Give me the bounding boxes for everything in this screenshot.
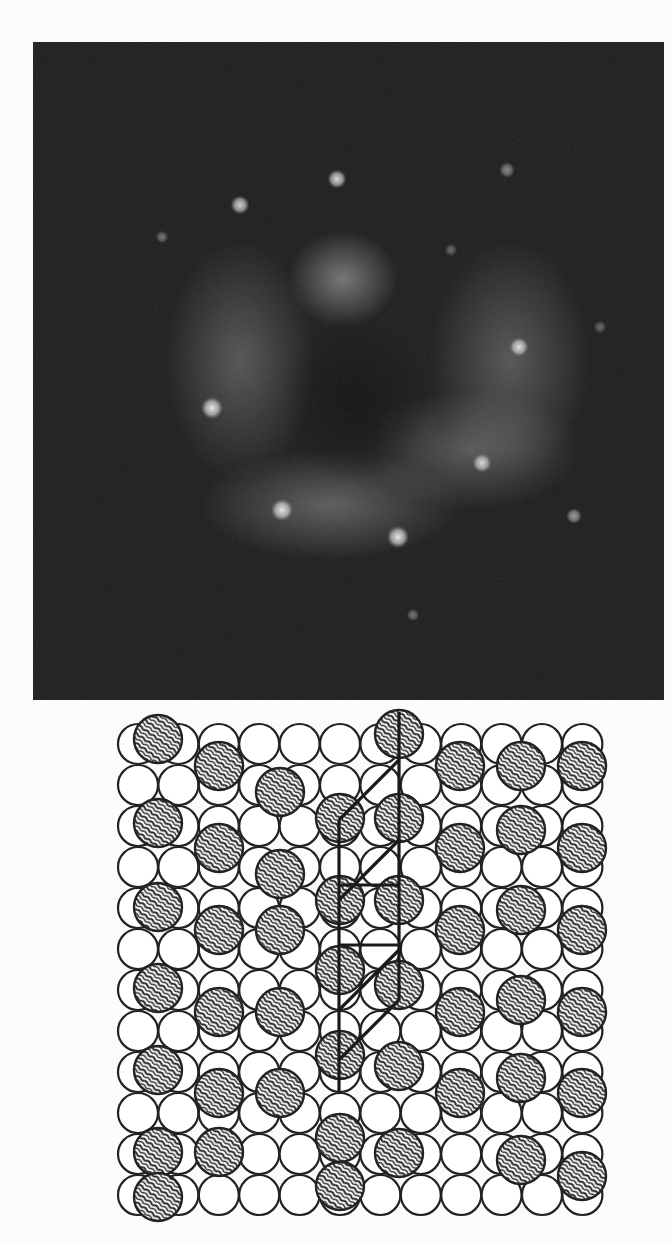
substrate-atom (118, 1093, 158, 1133)
substrate-atom (482, 929, 522, 969)
substrate-atom (401, 1093, 441, 1133)
adsorbate-atom (436, 906, 484, 954)
substrate-atom (441, 1134, 481, 1174)
adsorbate-atom (436, 1069, 484, 1117)
substrate-atom (360, 1093, 400, 1133)
lattice-model-diagram (0, 700, 671, 1243)
adsorbate-atom (195, 824, 243, 872)
adsorbate-atom (195, 906, 243, 954)
adsorbate-atom (256, 1069, 304, 1117)
adsorbate-atom (256, 850, 304, 898)
substrate-atom (522, 929, 562, 969)
adsorbate-atom (256, 988, 304, 1036)
adsorbate-atom (558, 1152, 606, 1200)
adsorbate-atom (497, 976, 545, 1024)
substrate-atom (239, 724, 279, 764)
adsorbate-atom (316, 1162, 364, 1210)
adsorbate-atom (134, 799, 182, 847)
adsorbate-atom (134, 1046, 182, 1094)
adsorbate-atom (558, 742, 606, 790)
noise-overlay (33, 42, 664, 700)
substrate-atom (239, 1134, 279, 1174)
adsorbate-atom (497, 1136, 545, 1184)
lattice-model-svg (0, 700, 671, 1243)
substrate-atom (158, 847, 198, 887)
adsorbate-atom (195, 1069, 243, 1117)
adsorbate-atom (375, 1129, 423, 1177)
adsorbate-atom (497, 806, 545, 854)
substrate-atom (280, 724, 320, 764)
adsorbate-atom (134, 715, 182, 763)
adsorbate-atom (436, 988, 484, 1036)
substrate-atom (401, 1175, 441, 1215)
adsorbate-atom (134, 883, 182, 931)
substrate-atom (118, 847, 158, 887)
adsorbate-atom (195, 742, 243, 790)
leed-diffraction-image (33, 42, 664, 700)
adsorbate-atom (134, 964, 182, 1012)
substrate-atom (118, 1011, 158, 1051)
adsorbate-atom (558, 988, 606, 1036)
adsorbate-atom (436, 824, 484, 872)
adsorbate-atom (558, 906, 606, 954)
leed-pattern-svg (33, 42, 664, 700)
substrate-atom (280, 1175, 320, 1215)
adsorbate-atom (497, 1054, 545, 1102)
substrate-atom (280, 1134, 320, 1174)
adsorbate-atom (195, 1128, 243, 1176)
substrate-atom (118, 929, 158, 969)
adsorbate-atom (134, 1173, 182, 1221)
adsorbate-atom (497, 886, 545, 934)
adsorbate-atom (195, 988, 243, 1036)
adsorbate-atom (256, 906, 304, 954)
adsorbate-atom (436, 742, 484, 790)
substrate-atom (158, 1011, 198, 1051)
substrate-atom (239, 1175, 279, 1215)
substrate-atom (441, 1175, 481, 1215)
substrate-atom (320, 724, 360, 764)
substrate-atom (158, 1093, 198, 1133)
adsorbate-atom (316, 1114, 364, 1162)
substrate-atom (158, 929, 198, 969)
adsorbate-atom (375, 1042, 423, 1090)
substrate-atom (360, 1175, 400, 1215)
substrate-atom (199, 1175, 239, 1215)
adsorbate-atom (134, 1128, 182, 1176)
adsorbate-atom (558, 824, 606, 872)
adsorbate-atom (558, 1069, 606, 1117)
adsorbate-atom (497, 742, 545, 790)
adsorbate-atom (256, 768, 304, 816)
